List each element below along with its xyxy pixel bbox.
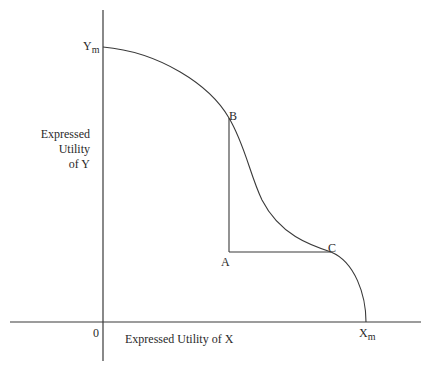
utility-frontier-curve: [103, 47, 366, 322]
y-max-subscript: m: [92, 44, 100, 55]
y-max-label: Ym: [83, 40, 99, 52]
y-axis-label-line-3: of Y: [38, 157, 90, 172]
y-axis-label-line-2: Utility: [38, 142, 90, 157]
point-a-label: A: [221, 256, 230, 268]
x-max-label: Xm: [359, 327, 375, 339]
origin-label: 0: [93, 327, 99, 339]
x-max-subscript: m: [368, 331, 376, 342]
y-axis-label-line-1: Expressed: [38, 127, 90, 142]
x-axis-label: Expressed Utility of X: [125, 333, 233, 345]
y-max-letter: Y: [83, 39, 92, 53]
point-b-label: B: [229, 110, 237, 122]
utility-frontier-diagram: [0, 0, 432, 373]
x-max-letter: X: [359, 326, 368, 340]
y-axis-label: Expressed Utility of Y: [38, 127, 90, 172]
point-c-label: C: [328, 242, 336, 254]
